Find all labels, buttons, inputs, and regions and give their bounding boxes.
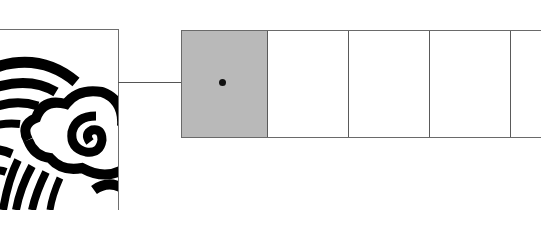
cell-empty[interactable] — [430, 31, 511, 137]
cell-empty[interactable] — [268, 31, 349, 137]
connector-dot — [219, 79, 226, 86]
source-image-frame — [0, 29, 119, 210]
cloud-wave-icon — [0, 30, 118, 210]
cell-strip — [181, 30, 541, 138]
cell-empty[interactable] — [511, 31, 541, 137]
cell-empty[interactable] — [349, 31, 430, 137]
